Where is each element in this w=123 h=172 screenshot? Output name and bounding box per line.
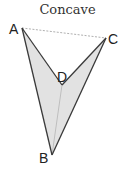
vertex-label-c: C (108, 31, 118, 47)
concave-quadrilateral-diagram: A C D B (0, 0, 123, 172)
vertex-label-b: B (39, 150, 48, 166)
vertex-label-d: D (57, 69, 67, 85)
segment-ac-dashed (22, 28, 106, 38)
vertex-label-a: A (9, 21, 19, 37)
